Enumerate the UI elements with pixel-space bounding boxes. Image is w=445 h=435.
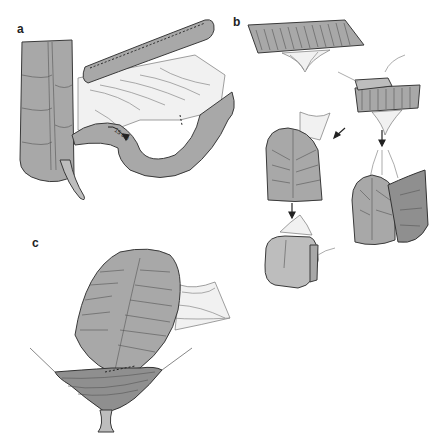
panel-b-drawing — [248, 20, 428, 288]
illustration: 15 cm — [0, 0, 445, 435]
panel-a-drawing: 15 cm — [20, 20, 234, 200]
panel-c-drawing — [30, 249, 230, 432]
